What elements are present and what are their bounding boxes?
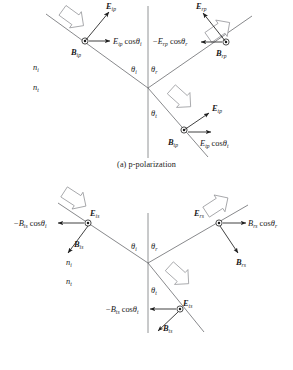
label-angle-incidence: θi [131, 65, 137, 75]
label-transmitted-E-component: Etp cosθt [199, 139, 229, 149]
reflected-propagation-block-arrow [201, 190, 234, 221]
label-angle-reflection: θr [151, 65, 158, 75]
figure-canvas: Eip Bip Eip cosθi Erp Brp [0, 0, 293, 370]
transmitted-propagation-block-arrow [163, 259, 196, 291]
label-transmitted-B-component: −Bts cosθt [106, 305, 139, 315]
label-angle-incidence: θi [131, 242, 137, 252]
incident-ray [58, 203, 148, 263]
panel-p-polarization: Eip Bip Eip cosθi Erp Brp [0, 0, 293, 185]
label-incident-E-component: Eip cosθi [112, 37, 142, 47]
incident-E-out-of-page-symbol [85, 220, 91, 226]
label-transmitted-E: Ets [182, 299, 192, 309]
incident-propagation-block-arrow [57, 2, 90, 33]
transmitted-propagation-block-arrow [165, 82, 198, 114]
label-incident-medium-index: ni [33, 63, 39, 73]
label-angle-reflection: θr [151, 242, 158, 252]
label-incident-medium-index: ni [66, 258, 72, 268]
label-incident-B-component: −Bis cosθi [14, 219, 47, 229]
transmitted-E-vector [184, 113, 209, 130]
label-transmitted-medium-index: nt [66, 277, 72, 287]
label-reflected-B: Brp [215, 49, 227, 59]
label-reflected-B-component: Brs cosθr [248, 219, 278, 229]
label-transmitted-E: Etp [211, 104, 222, 114]
incident-E-vector [85, 12, 109, 41]
label-reflected-E: Ers [193, 209, 204, 219]
panel-s-polarization: Eis −Bis cosθi Bis Ers Brs cosθr [0, 185, 293, 370]
label-incident-B: Bis [73, 240, 83, 250]
label-transmitted-B: Bts [162, 324, 172, 334]
reflected-E-out-of-page-symbol [216, 220, 222, 226]
label-reflected-E: Erp [195, 2, 207, 12]
incident-ray [46, 14, 148, 88]
label-incident-E: Eis [89, 209, 99, 219]
label-reflected-E-component: −Erp cosθr [153, 37, 188, 47]
incident-propagation-block-arrow [59, 185, 92, 214]
label-transmitted-medium-index: nt [33, 83, 39, 93]
label-angle-transmission: θt [151, 109, 157, 119]
label-incident-E: Eip [105, 2, 116, 12]
reflected-B-vector [220, 226, 238, 253]
label-transmitted-B: Btp [167, 138, 178, 148]
label-incident-B: Bip [70, 48, 81, 58]
caption-p-polarization: (a) p-polarization [0, 160, 293, 169]
reflected-ray [148, 16, 252, 88]
label-angle-transmission: θt [151, 286, 157, 296]
label-reflected-B: Brs [235, 258, 246, 268]
